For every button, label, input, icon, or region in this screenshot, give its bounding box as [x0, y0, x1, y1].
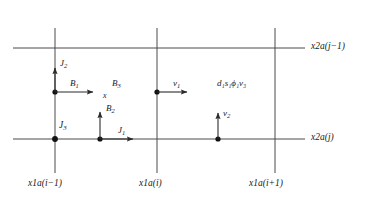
vector-label-b2-subscript: 2 [112, 107, 115, 114]
grid-stencil-figure: x2a(j−1) x2a(j) x1a(i−1) x1a(i) x1a(i+1)… [0, 0, 371, 200]
node-j3 [52, 136, 58, 142]
axis-label-top-row: x2a(j−1) [311, 42, 345, 52]
point-label-b3: B3 [112, 79, 121, 89]
vector-label-j1: J1 [118, 126, 125, 136]
vector-arrows [55, 68, 218, 139]
vector-label-b2: B2 [106, 104, 115, 114]
grid-nodes [52, 89, 221, 142]
grid-vertical-lines [55, 28, 275, 173]
column-label-x1a-i-minus-1: x1a(i−1) [28, 179, 62, 189]
vector-label-j2-subscript: 2 [64, 62, 67, 69]
point-label-j3-subscript: 3 [63, 124, 66, 131]
vector-label-v1: v1 [173, 79, 180, 89]
vector-label-v2-subscript: 2 [227, 112, 230, 119]
point-label-x: x [103, 92, 107, 100]
point-label-b3-subscript: 3 [118, 82, 121, 89]
vector-label-j1-subscript: 1 [122, 129, 125, 136]
cell-center-variable-group: d₁s₁ϕ₁v₃ [217, 79, 246, 88]
vector-label-v2: v2 [223, 109, 230, 119]
axis-label-bottom-row: x2a(j) [311, 133, 334, 143]
column-label-x1a-i-plus-1: x1a(i+1) [249, 179, 283, 189]
point-label-j3: J3 [59, 121, 67, 132]
vector-label-v1-subscript: 1 [177, 82, 180, 89]
vector-label-b1: B1 [70, 79, 79, 89]
vector-label-j2: J2 [60, 59, 67, 69]
diagram-canvas [0, 0, 371, 200]
column-label-x1a-i: x1a(i) [139, 179, 162, 189]
vector-label-b1-subscript: 1 [76, 82, 79, 89]
